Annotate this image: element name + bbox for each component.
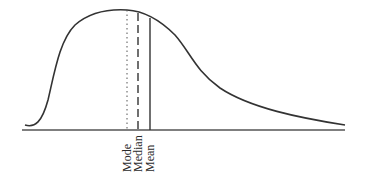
distribution-diagram	[0, 0, 365, 180]
distribution-curve	[25, 10, 345, 126]
mean-label: Mean	[144, 145, 156, 172]
